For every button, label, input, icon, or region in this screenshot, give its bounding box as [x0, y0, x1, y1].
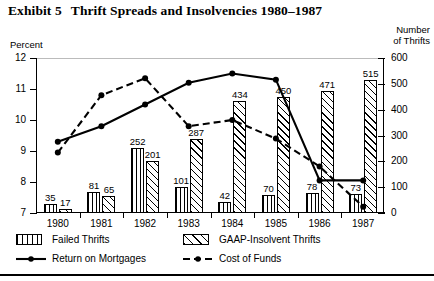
- legend-marker-return-on-mortgages: [16, 254, 46, 264]
- data-point-marker: [98, 92, 104, 98]
- data-point-marker: [142, 75, 148, 81]
- legend-swatch-gaap-insolvent-thrifts: [183, 234, 209, 245]
- legend-swatch-failed-thrifts: [16, 234, 42, 245]
- legend-marker-cost-of-funds: [183, 254, 213, 264]
- data-point-marker: [229, 117, 235, 123]
- data-point-marker: [142, 102, 148, 108]
- data-point-marker: [55, 150, 61, 156]
- data-point-marker: [229, 71, 235, 77]
- exhibit-figure: Exhibit 5Thrift Spreads and Insolvencies…: [0, 0, 434, 281]
- data-point-marker: [360, 204, 366, 210]
- legend-label-cost-of-funds: Cost of Funds: [219, 253, 281, 264]
- chart-legend: Failed Thrifts GAAP-Insolvent Thrifts Re…: [0, 230, 434, 274]
- data-point-marker: [186, 80, 192, 86]
- data-point-marker: [273, 136, 279, 142]
- bottom-rule: [0, 274, 434, 276]
- cost-of-funds-markers: [55, 75, 366, 210]
- data-point-marker: [98, 123, 104, 129]
- legend-label-return-on-mortgages: Return on Mortgages: [52, 253, 146, 264]
- cost-of-funds-line: [58, 78, 363, 207]
- data-point-marker: [273, 77, 279, 83]
- legend-label-failed-thrifts: Failed Thrifts: [52, 234, 110, 245]
- data-point-marker: [55, 139, 61, 145]
- data-point-marker: [186, 123, 192, 129]
- data-point-marker: [317, 177, 323, 183]
- legend-label-gaap-insolvent-thrifts: GAAP-Insolvent Thrifts: [219, 234, 321, 245]
- data-point-marker: [317, 164, 323, 170]
- data-point-marker: [360, 177, 366, 183]
